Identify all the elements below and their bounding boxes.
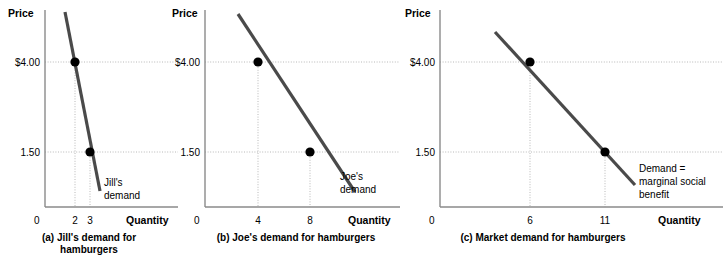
data-point-1 xyxy=(525,57,534,66)
data-point-1 xyxy=(70,57,79,66)
demand-curves-figure: Price $4.00 1.50 Jill's demand 0 2 3 xyxy=(0,0,725,257)
demand-curve-joe xyxy=(238,14,355,192)
data-point-2 xyxy=(600,147,609,156)
origin-label: 0 xyxy=(34,215,40,226)
demand-curve-jill xyxy=(65,12,100,191)
chart-panel-market-demand: Price $4.00 1.50 Demand = marginal socia… xyxy=(400,0,725,257)
y-tick-label-4: $4.00 xyxy=(175,57,200,68)
data-point-2 xyxy=(85,147,94,156)
curve-label-line-2: demand xyxy=(104,190,140,201)
x-tick-label-2: 2 xyxy=(72,215,78,226)
y-tick-label-150: 1.50 xyxy=(181,147,201,158)
chart-panel-jills-demand: Price $4.00 1.50 Jill's demand 0 2 3 xyxy=(0,0,180,257)
x-axis-title: Quantity xyxy=(348,214,391,226)
x-tick-label-8: 8 xyxy=(307,215,313,226)
y-axis-title: Price xyxy=(405,7,431,19)
chart-svg-a: Price $4.00 1.50 Jill's demand 0 2 3 xyxy=(0,0,180,257)
chart-panel-joes-demand: Price $4.00 1.50 Joe's demand 0 4 8 Quan… xyxy=(172,0,402,257)
origin-label: 0 xyxy=(194,215,200,226)
curve-label-line-1: Joe's xyxy=(340,171,363,182)
x-tick-label-4: 4 xyxy=(255,215,261,226)
panel-caption-line-2: hamburgers xyxy=(60,244,118,255)
y-axis-title: Price xyxy=(172,7,198,19)
y-tick-label-150: 1.50 xyxy=(416,147,436,158)
y-axis-title: Price xyxy=(8,7,34,19)
x-tick-label-11: 11 xyxy=(600,215,611,226)
panel-caption-line-1: (c) Market demand for hamburgers xyxy=(460,232,625,243)
x-axis-title: Quantity xyxy=(126,214,169,226)
x-axis-title: Quantity xyxy=(658,214,701,226)
x-tick-label-3: 3 xyxy=(87,215,93,226)
origin-label: 0 xyxy=(429,215,435,226)
curve-label-line-2: marginal social xyxy=(639,176,706,187)
y-tick-label-4: $4.00 xyxy=(410,57,435,68)
curve-label-line-1: Jill's xyxy=(104,177,123,188)
data-point-2 xyxy=(305,147,314,156)
curve-label-line-1: Demand = xyxy=(639,163,686,174)
data-point-1 xyxy=(253,57,262,66)
demand-curve-market xyxy=(495,32,635,185)
y-tick-label-4: $4.00 xyxy=(15,57,40,68)
curve-label-line-2: demand xyxy=(340,184,376,195)
chart-svg-c: Price $4.00 1.50 Demand = marginal socia… xyxy=(400,0,725,257)
x-tick-label-6: 6 xyxy=(527,215,533,226)
y-tick-label-150: 1.50 xyxy=(21,147,41,158)
panel-caption-line-1: (a) Jill's demand for xyxy=(42,232,136,243)
panel-caption-line-1: (b) Joe's demand for hamburgers xyxy=(217,232,376,243)
curve-label-line-3: benefit xyxy=(639,189,669,200)
chart-svg-b: Price $4.00 1.50 Joe's demand 0 4 8 Quan… xyxy=(172,0,402,257)
